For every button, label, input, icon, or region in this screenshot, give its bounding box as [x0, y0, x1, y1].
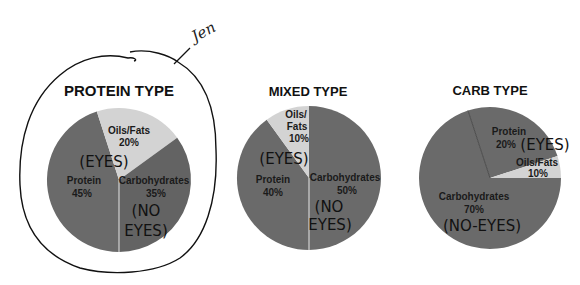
handwritten-name: Jen	[186, 18, 219, 47]
note-eyes: (EYES)	[79, 153, 128, 171]
note-no-eyes-line1: (NO	[315, 198, 344, 216]
label-carbohydrates-pct: 50%	[337, 185, 357, 196]
label-oils-fats-pct: 10%	[528, 168, 548, 179]
mixed-type-chart: MIXED TYPE Oils/ Fats 10% Protein 40% Ca…	[237, 84, 381, 250]
carb-type-chart: CARB TYPE Protein 20% Oils/Fats 10% Carb…	[419, 83, 570, 249]
note-no-eyes-line1: (NO	[132, 202, 161, 220]
label-protein-pct: 45%	[72, 188, 92, 199]
handdrawn-pointer-line	[174, 48, 190, 64]
label-carbohydrates: Carbohydrates	[310, 172, 381, 183]
carb-type-title: CARB TYPE	[452, 83, 527, 98]
note-eyes: (EYES)	[259, 150, 308, 168]
label-protein: Protein	[67, 175, 101, 186]
label-oils-fats-pct: 10%	[289, 133, 309, 144]
note-no-eyes-line2: EYES)	[124, 222, 168, 240]
note-eyes: (EYES)	[520, 136, 569, 154]
label-protein-pct: 40%	[263, 187, 283, 198]
note-no-eyes: (NO-EYES)	[443, 217, 521, 235]
label-oils-fats: Oils/Fats	[108, 125, 151, 136]
mixed-type-title: MIXED TYPE	[269, 84, 348, 99]
label-protein-pct: 20%	[496, 139, 516, 150]
label-oils-fats-line2: Fats	[287, 121, 308, 132]
label-oils-fats-line1: Oils/	[285, 109, 307, 120]
pie-charts-figure: PROTEIN TYPE Oils/Fats 20% Protein 45% C…	[0, 0, 580, 285]
label-carbohydrates-pct: 35%	[146, 188, 166, 199]
label-oils-fats: Oils/Fats	[516, 157, 559, 168]
label-carbohydrates: Carbohydrates	[119, 175, 190, 186]
note-no-eyes-line2: EYES)	[308, 216, 352, 234]
label-carbohydrates-pct: 70%	[464, 204, 484, 215]
label-protein: Protein	[256, 174, 290, 185]
label-oils-fats-pct: 20%	[119, 137, 139, 148]
protein-type-chart: PROTEIN TYPE Oils/Fats 20% Protein 45% C…	[47, 82, 191, 252]
label-carbohydrates: Carbohydrates	[439, 191, 510, 202]
protein-type-title: PROTEIN TYPE	[64, 82, 174, 99]
